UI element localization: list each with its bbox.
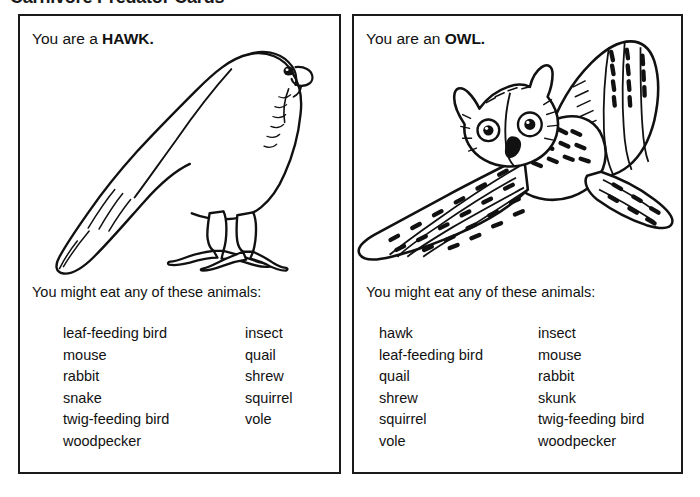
prey-item: rabbit: [63, 366, 245, 388]
prey-item: vole: [379, 431, 538, 453]
prey-item: rabbit: [538, 366, 644, 388]
prey-item: woodpecker: [538, 431, 644, 453]
hawk-illustration: [20, 32, 339, 280]
prey-prompt-owl: You might eat any of these animals:: [366, 284, 595, 300]
predator-card-hawk: You are a HAWK.: [18, 14, 341, 474]
prey-item: skunk: [538, 388, 644, 410]
prey-item: shrew: [379, 388, 538, 410]
prey-item: mouse: [538, 345, 644, 367]
prey-list-hawk: leaf-feeding bird mouse rabbit snake twi…: [20, 323, 382, 452]
prey-item: squirrel: [379, 409, 538, 431]
prey-prompt-hawk: You might eat any of these animals:: [32, 284, 261, 300]
prey-item: leaf-feeding bird: [63, 323, 245, 345]
prey-column-1: leaf-feeding bird mouse rabbit snake twi…: [63, 323, 245, 452]
prey-column-2: insect mouse rabbit skunk twig-feeding b…: [538, 323, 644, 452]
owl-illustration: [354, 32, 681, 280]
prey-item: twig-feeding bird: [63, 409, 245, 431]
prey-item: mouse: [63, 345, 245, 367]
prey-item: twig-feeding bird: [538, 409, 644, 431]
prey-item: woodpecker: [63, 431, 245, 453]
prey-column-1: hawk leaf-feeding bird quail shrew squir…: [379, 323, 538, 452]
prey-item: quail: [245, 345, 293, 367]
prey-item: insect: [245, 323, 293, 345]
prey-item: vole: [245, 409, 293, 431]
prey-item: quail: [379, 366, 538, 388]
prey-item: hawk: [379, 323, 538, 345]
worksheet-title: Carnivore Predator Cards: [10, 0, 224, 8]
prey-item: insect: [538, 323, 644, 345]
prey-column-2: insect quail shrew squirrel vole: [245, 323, 293, 452]
prey-item: snake: [63, 388, 245, 410]
predator-card-owl: You are an OWL.: [352, 14, 683, 474]
prey-item: leaf-feeding bird: [379, 345, 538, 367]
prey-item: squirrel: [245, 388, 293, 410]
prey-item: shrew: [245, 366, 293, 388]
prey-list-owl: hawk leaf-feeding bird quail shrew squir…: [354, 323, 700, 452]
